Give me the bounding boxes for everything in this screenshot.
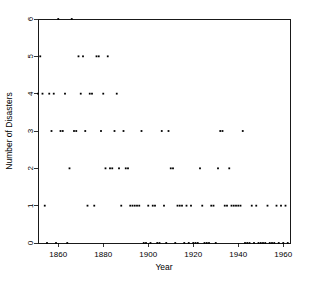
y-axis-title: Number of Disasters [4,92,14,169]
data-point [107,55,109,57]
data-point [181,205,183,207]
data-point [116,93,118,95]
data-point [98,55,100,57]
data-point [246,242,248,244]
data-point [102,93,104,95]
data-point [147,205,149,207]
data-point [287,242,289,244]
data-point [282,242,284,244]
y-axis-ticks: 0123456 [26,16,38,245]
data-point [269,242,271,244]
data-point [55,242,57,244]
data-point [150,242,152,244]
data-point [82,55,84,57]
data-point [57,18,59,20]
data-point [60,130,62,132]
data-point [105,167,107,169]
data-point [213,205,215,207]
data-point [154,205,156,207]
data-point [215,242,217,244]
y-tick-label: 1 [26,203,35,208]
data-point [204,242,206,244]
data-point [69,167,71,169]
x-axis-title: Year [155,262,172,272]
y-tick-label: 2 [26,166,35,171]
data-point [210,205,212,207]
data-point [39,55,41,57]
data-point [285,205,287,207]
data-point [134,205,136,207]
data-point [255,205,257,207]
data-point [89,93,91,95]
data-point [219,130,221,132]
data-point [46,242,48,244]
data-point [44,205,46,207]
data-point [174,242,176,244]
data-point [190,205,192,207]
data-point [127,167,129,169]
data-point [91,93,93,95]
data-point [192,242,194,244]
data-point [53,93,55,95]
data-point [188,242,190,244]
data-point [197,242,199,244]
data-point [37,93,39,95]
data-point [170,167,172,169]
data-point [141,130,143,132]
data-point [75,130,77,132]
data-point [222,130,224,132]
data-point [62,130,64,132]
data-point [73,130,75,132]
data-point [48,93,50,95]
data-point [87,205,89,207]
data-point [217,167,219,169]
data-point [100,130,102,132]
data-point [66,242,68,244]
data-point [276,205,278,207]
data-point [125,167,127,169]
data-point [136,205,138,207]
data-point [145,242,147,244]
data-point [186,205,188,207]
data-point [109,167,111,169]
data-point [132,205,134,207]
data-point [235,205,237,207]
data-point [260,242,262,244]
data-point [249,242,251,244]
x-axis-ticks: 186018801900192019401960 [49,243,292,259]
data-point [172,167,174,169]
data-point [177,205,179,207]
data-point [206,242,208,244]
data-point [168,130,170,132]
data-point [123,130,125,132]
x-tick-label: 1940 [229,250,247,259]
data-point [159,242,161,244]
data-point [208,242,210,244]
data-point [201,205,203,207]
data-point [51,130,53,132]
data-point [226,205,228,207]
data-point [163,205,165,207]
data-point [228,167,230,169]
data-point [267,205,269,207]
data-point [242,130,244,132]
data-point [42,93,44,95]
data-point [253,242,255,244]
data-point [71,18,73,20]
data-point [111,167,113,169]
disasters-scatter-figure: 186018801900192019401960 0123456 Year Nu… [0,0,310,282]
data-point [120,205,122,207]
data-point [240,205,242,207]
data-point [114,130,116,132]
data-point [161,130,163,132]
data-point [262,242,264,244]
data-point [271,242,273,244]
data-point [199,167,201,169]
data-point [233,205,235,207]
data-point [264,242,266,244]
y-tick-label: 6 [26,16,35,21]
data-point [195,242,197,244]
data-point [280,205,282,207]
x-tick-label: 1880 [94,250,112,259]
data-point [80,93,82,95]
